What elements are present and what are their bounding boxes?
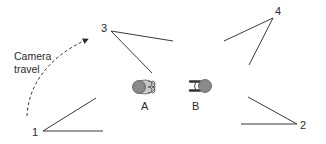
camera-4-label: 4	[275, 6, 281, 17]
camera-1-angle	[43, 98, 103, 131]
camera-travel-label-line1: Camera	[14, 50, 51, 63]
camera-travel-label-line2: travel	[14, 63, 51, 76]
camera-travel-label: Camera travel	[14, 50, 51, 76]
camera-3-label: 3	[101, 23, 107, 34]
camera-2-angle	[241, 97, 297, 124]
camera-2-label: 2	[300, 120, 306, 131]
subject-a-figure	[133, 80, 156, 94]
subject-b-figure	[190, 80, 212, 93]
camera-placement-diagram: Camera travel 1 2 3 4 A B	[0, 0, 326, 144]
subject-b-label: B	[192, 101, 199, 112]
camera-3-angle	[111, 31, 173, 73]
camera-1-label: 1	[32, 127, 38, 138]
subject-a-label: A	[141, 101, 148, 112]
camera-4-angle	[224, 18, 273, 65]
